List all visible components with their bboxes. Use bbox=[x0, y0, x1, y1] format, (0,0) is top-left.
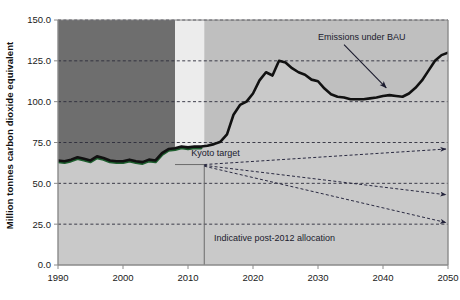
x-tick-label-2010: 2010 bbox=[177, 272, 198, 283]
x-tick-label-1990: 1990 bbox=[47, 272, 68, 283]
y-tick-label-0.0: 0.0 bbox=[38, 259, 51, 270]
y-tick-label-50.0: 50.0 bbox=[33, 178, 52, 189]
y-tick-label-100.0: 100.0 bbox=[27, 96, 51, 107]
y-axis-title-text: Million tonnes carbon dioxide equivalent bbox=[5, 41, 16, 229]
x-tick-label-2050: 2050 bbox=[437, 272, 458, 283]
kyoto-target-annotation-text: Kyoto target bbox=[191, 148, 240, 158]
post-2012-allocation-annotation-text: Indicative post-2012 allocation bbox=[214, 233, 335, 243]
x-tick-label-2020: 2020 bbox=[242, 272, 263, 283]
y-tick-label-125.0: 125.0 bbox=[27, 55, 51, 66]
y-tick-label-75.0: 75.0 bbox=[33, 137, 52, 148]
y-axis-ticks: 0.025.050.075.0100.0125.0150.0 bbox=[27, 14, 58, 270]
x-tick-label-2040: 2040 bbox=[372, 272, 393, 283]
bau-annotation-text: Emissions under BAU bbox=[318, 32, 406, 42]
x-tick-label-2030: 2030 bbox=[307, 272, 328, 283]
y-axis-title: Million tonnes carbon dioxide equivalent bbox=[2, 0, 18, 270]
x-tick-label-2000: 2000 bbox=[112, 272, 133, 283]
y-tick-label-25.0: 25.0 bbox=[33, 219, 52, 230]
chart-canvas: 1990200020102020203020402050 0.025.050.0… bbox=[0, 0, 460, 300]
emissions-projection-chart: Million tonnes carbon dioxide equivalent bbox=[0, 0, 460, 300]
x-axis-ticks: 1990200020102020203020402050 bbox=[47, 265, 458, 283]
y-tick-label-150.0: 150.0 bbox=[27, 14, 51, 25]
